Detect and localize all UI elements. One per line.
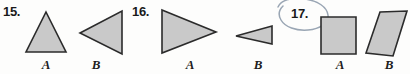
figure-label-16-b: B [248, 58, 268, 71]
figure-17-b-parallelogram [364, 9, 410, 59]
problem-number-16: 16. [132, 5, 149, 18]
figure-label-15-a: A [36, 58, 56, 71]
figure-label-15-b: B [86, 58, 106, 71]
problem-number-15: 15. [3, 5, 20, 18]
worksheet-figure-strip: 15. A B 16. A B 17. A B [0, 0, 410, 74]
figure-16-a-triangle-right [160, 8, 218, 54]
figure-17-a-square [319, 15, 359, 56]
figure-label-17-b: B [379, 58, 399, 71]
figure-label-16-a: A [180, 58, 200, 71]
figure-15-a-triangle-up [24, 10, 68, 54]
figure-15-b-triangle-left [78, 9, 124, 55]
figure-16-b-triangle-left-small [234, 24, 274, 46]
problem-number-17: 17. [291, 7, 308, 20]
figure-label-17-a: A [330, 58, 350, 71]
